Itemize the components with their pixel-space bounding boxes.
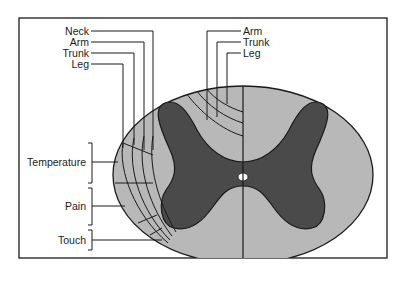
label-right-leg: Leg [243,47,261,59]
label-touch: Touch [58,234,86,246]
spinal-cord-diagram: Neck Arm Trunk Leg Arm Trunk Leg Tempera… [0,0,408,286]
label-pain: Pain [65,200,86,212]
label-left-leg: Leg [71,58,89,70]
label-temperature: Temperature [27,156,86,168]
